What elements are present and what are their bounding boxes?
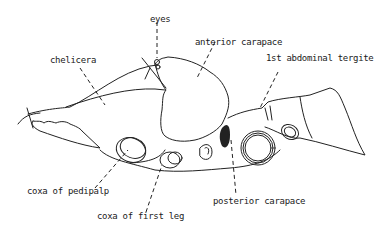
chelicera-outline — [28, 65, 165, 114]
anterior-carapace-outline — [155, 57, 229, 141]
label-coxa-of-pedipalp: coxa of pedipalp — [27, 186, 109, 196]
label-posterior-carapace: posterior carapace — [213, 196, 305, 206]
label-chelicera: chelicera — [50, 55, 96, 65]
label-anterior-carapace: anterior carapace — [195, 37, 282, 47]
eye-2 — [156, 65, 160, 69]
coxa-small-cylinder — [279, 121, 302, 142]
coxa-large-ring-inner2 — [245, 135, 271, 161]
label-coxa-of-first-leg: coxa of first leg — [97, 211, 184, 221]
leader-coxa-first-leg — [146, 165, 162, 212]
chelicera-fang — [18, 108, 100, 148]
arachnid-drawing — [0, 0, 381, 234]
coxa-second-leg — [200, 145, 212, 160]
label-eyes: eyes — [150, 14, 170, 24]
coxa-large-ring — [241, 131, 275, 165]
eye-marks — [142, 58, 166, 88]
coxa-large-ring-inner — [243, 133, 273, 163]
diagram-canvas: eyes chelicera anterior carapace 1st abd… — [0, 0, 381, 234]
ventral-body-outline — [100, 150, 280, 171]
leader-coxa-pedipalp — [95, 150, 128, 188]
abdomen-outline — [228, 88, 365, 155]
leader-anterior-carapace — [197, 42, 215, 78]
label-1st-abdominal-tergite: 1st abdominal tergite — [266, 53, 374, 63]
leader-1st-abdominal-tergite — [260, 72, 278, 108]
posterior-carapace-sclerite — [220, 125, 230, 147]
